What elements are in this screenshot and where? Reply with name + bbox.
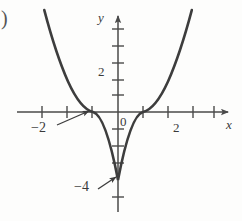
annotation-arrows (57, 111, 116, 189)
y-axis-label: y (98, 11, 104, 24)
annotation-label-x-intercept-left: −2 (31, 121, 46, 135)
cropped-paren-fragment: ) (1, 8, 8, 28)
y-tick-label-2: 2 (98, 65, 105, 78)
graph-figure: ) y x 2 0 2 −2 −4 (0, 0, 242, 221)
x-axis-label: x (226, 118, 232, 131)
origin-label: 0 (120, 115, 127, 128)
annotation-label-vertex: −4 (74, 180, 89, 194)
x-tick-label-2: 2 (173, 121, 180, 134)
arrow-to-vertex (98, 177, 116, 189)
arrow-to-x-intercept-left (57, 111, 89, 125)
coordinate-plane-svg (0, 0, 242, 221)
